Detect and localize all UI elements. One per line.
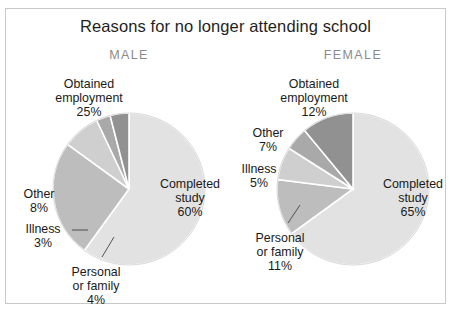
label-male-personal-or-family: Personal or family 4% xyxy=(52,265,140,308)
pie-chart-female xyxy=(6,9,447,305)
label-male-illness: Illness 3% xyxy=(8,222,78,250)
label-female-personal-or-family: Personal or family 11% xyxy=(236,231,324,274)
label-female-obtained-employment: Obtained employment 12% xyxy=(259,77,369,120)
label-female-illness: Illness 5% xyxy=(224,162,294,190)
label-male-other: Other 8% xyxy=(4,187,74,215)
label-female-other: Other 7% xyxy=(233,126,303,154)
label-male-completed-study: Completed study 60% xyxy=(146,177,234,220)
label-female-completed-study: Completed study 65% xyxy=(369,177,454,220)
chart-figure-frame: Reasons for no longer attending school M… xyxy=(5,8,446,304)
label-male-obtained-employment: Obtained employment 25% xyxy=(34,77,144,120)
